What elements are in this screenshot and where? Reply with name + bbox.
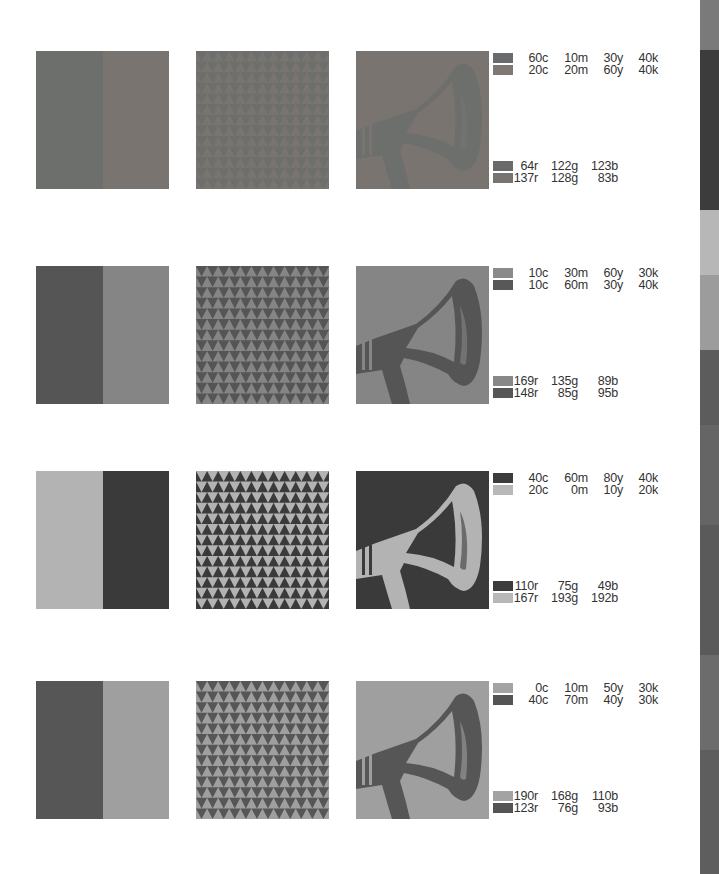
cmyk-value: 70m [564,694,588,706]
cmyk-value-row: 40c70m40y30k [493,694,688,706]
rgb-value: 85g [558,387,578,399]
cmyk-value: 10c [528,279,548,291]
color-swatch [493,791,513,801]
cmyk-value: 0m [571,484,588,496]
cmyk-value: 40k [638,279,658,291]
color-swatch [493,280,513,290]
color-a-half [36,51,103,189]
color-swatch [493,593,513,603]
color-swatch [493,485,513,495]
cmyk-value: 60m [564,279,588,291]
rgb-value: 192b [591,592,618,604]
color-b-half [103,266,170,404]
cmyk-value: 20k [638,484,658,496]
color-swatch [493,65,513,75]
color-values-legend: 40c60m80y40k20c0m10y20k110r75g49b167r193… [493,471,688,611]
color-a-half [36,471,103,609]
strip-segment [700,210,719,275]
cmyk-value: 30y [603,279,623,291]
color-swatch [493,173,513,183]
two-color-split-swatch [36,471,169,609]
color-b-half [103,51,170,189]
strip-segment [700,0,719,50]
cmyk-value-row: 10c60m30y40k [493,279,688,291]
color-swatch [493,376,513,386]
cmyk-value: 40k [638,64,658,76]
color-values-legend: 60c10m30y40k20c20m60y40k64r122g123b137r1… [493,51,688,191]
rgb-value: 93b [598,802,618,814]
triangle-pattern-swatch [196,681,329,819]
triangle-pattern-swatch [196,51,329,189]
rgb-value: 137r [514,172,538,184]
strip-segment [700,425,719,525]
rgb-value: 83b [598,172,618,184]
color-swatch [493,683,513,693]
color-combination-row: 60c10m30y40k20c20m60y40k64r122g123b137r1… [0,51,690,191]
color-swatch [493,53,513,63]
color-swatch [493,473,513,483]
cmyk-value: 30k [638,694,658,706]
strip-segment [700,655,719,750]
rgb-value-row: 148r85g95b [493,387,688,399]
two-color-split-swatch [36,51,169,189]
megaphone-illustration [356,681,489,819]
color-swatch [493,161,513,171]
rgb-value: 148r [514,387,538,399]
color-a-half [36,681,103,819]
color-swatch [493,581,513,591]
megaphone-illustration [356,471,489,609]
color-combination-row: 10c30m60y30k10c60m30y40k169r135g89b148r8… [0,266,690,406]
rgb-value: 128g [551,172,578,184]
cmyk-value-row: 20c20m60y40k [493,64,688,76]
strip-segment [700,50,719,210]
cmyk-value: 40c [528,694,548,706]
rgb-value: 76g [558,802,578,814]
triangle-pattern-swatch [196,471,329,609]
megaphone-illustration [356,51,489,189]
cmyk-value: 60y [603,64,623,76]
color-values-legend: 0c10m50y30k40c70m40y30k190r168g110b123r7… [493,681,688,821]
color-a-half [36,266,103,404]
color-b-half [103,681,170,819]
strip-segment [700,350,719,425]
two-color-split-swatch [36,681,169,819]
cmyk-value: 20m [564,64,588,76]
color-swatch [493,388,513,398]
color-strip [700,0,719,874]
megaphone-illustration [356,266,489,404]
cmyk-value-row: 60c10m30y40k [493,52,688,64]
cmyk-value: 20c [528,484,548,496]
cmyk-value: 40y [603,694,623,706]
triangle-pattern-swatch [196,266,329,404]
color-b-half [103,471,170,609]
rgb-value: 193g [551,592,578,604]
cmyk-value: 20c [528,64,548,76]
cmyk-value-row: 0c10m50y30k [493,682,688,694]
rgb-value: 95b [598,387,618,399]
strip-segment [700,525,719,655]
cmyk-value-row: 20c0m10y20k [493,484,688,496]
color-combination-row: 0c10m50y30k40c70m40y30k190r168g110b123r7… [0,681,690,821]
rgb-value: 167r [514,592,538,604]
color-combination-row: 40c60m80y40k20c0m10y20k110r75g49b167r193… [0,471,690,611]
color-swatch [493,803,513,813]
color-swatch [493,268,513,278]
rgb-value: 123r [514,802,538,814]
color-swatch [493,695,513,705]
cmyk-value: 10y [603,484,623,496]
color-values-legend: 10c30m60y30k10c60m30y40k169r135g89b148r8… [493,266,688,406]
rgb-value-row: 167r193g192b [493,592,688,604]
rgb-value-row: 137r128g83b [493,172,688,184]
strip-segment [700,275,719,350]
cmyk-value-row: 10c30m60y30k [493,267,688,279]
two-color-split-swatch [36,266,169,404]
cmyk-value-row: 40c60m80y40k [493,472,688,484]
strip-segment [700,750,719,874]
rgb-value-row: 123r76g93b [493,802,688,814]
